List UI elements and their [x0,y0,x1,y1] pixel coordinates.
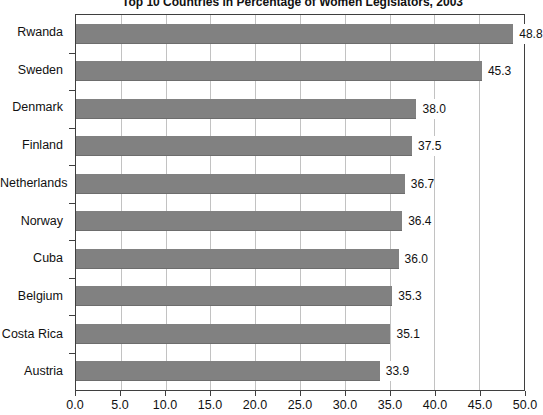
x-axis-label-20: 20.0 [243,398,267,412]
bar-netherlands [76,174,405,194]
category-label-norway: Norway [0,203,69,241]
x-axis-tick-20 [255,391,256,396]
plot-area: 48.845.338.037.536.736.436.035.335.133.9 [75,14,525,391]
chart-title-area: Top 10 Countries in Percentage of Women … [60,0,525,10]
category-label-belgium: Belgium [0,278,69,316]
value-label-belgium: 35.3 [397,286,421,306]
y-axis-tick [69,53,75,54]
category-label-finland: Finland [0,127,69,165]
bar-costa-rica [76,324,390,344]
x-axis-label-0: 0.0 [66,398,83,412]
bar-sweden [76,61,482,81]
x-axis-tick-0 [75,391,76,396]
x-axis-tick-10 [165,391,166,396]
x-axis-label-15: 15.0 [198,398,222,412]
x-axis-tick-50 [525,391,526,396]
x-axis-tick-30 [345,391,346,396]
x-axis-label-10: 10.0 [153,398,177,412]
value-label-sweden: 45.3 [487,61,511,81]
x-axis-tick-15 [210,391,211,396]
x-axis-label-40: 40.0 [423,398,447,412]
bar-denmark [76,99,416,119]
bar-norway [76,211,402,231]
y-axis-tick [69,315,75,316]
bar-belgium [76,286,392,306]
category-label-netherlands: Netherlands [0,165,69,203]
value-label-rwanda: 48.8 [518,24,542,44]
y-axis-tick [69,278,75,279]
x-axis: 0.05.010.015.020.025.030.035.040.045.050… [75,391,525,415]
x-axis-tick-40 [435,391,436,396]
x-axis-label-5: 5.0 [111,398,128,412]
x-axis-label-45: 45.0 [468,398,492,412]
x-axis-label-35: 35.0 [378,398,402,412]
x-axis-tick-45 [480,391,481,396]
bar-cuba [76,249,399,269]
category-axis: RwandaSwedenDenmarkFinlandNetherlandsNor… [0,14,69,391]
x-axis-tick-35 [390,391,391,396]
y-axis-tick [69,353,75,354]
value-label-finland: 37.5 [417,136,441,156]
value-label-austria: 33.9 [385,361,409,381]
chart-title: Top 10 Countries in Percentage of Women … [60,0,525,9]
y-axis-tick [69,203,75,204]
bar-austria [76,361,380,381]
x-axis-tick-5 [120,391,121,396]
y-axis-tick [69,165,75,166]
category-label-denmark: Denmark [0,89,69,127]
bar-finland [76,136,412,156]
value-label-norway: 36.4 [407,211,431,231]
value-label-costa-rica: 35.1 [395,324,419,344]
value-label-denmark: 38.0 [421,99,445,119]
x-axis-label-25: 25.0 [288,398,312,412]
category-label-costa-rica: Costa Rica [0,316,69,354]
value-label-netherlands: 36.7 [410,174,434,194]
y-axis-tick [69,90,75,91]
value-label-cuba: 36.0 [404,249,428,269]
category-label-rwanda: Rwanda [0,14,69,52]
x-axis-label-30: 30.0 [333,398,357,412]
category-label-austria: Austria [0,353,69,391]
y-axis-tick [69,240,75,241]
y-axis-tick [69,128,75,129]
category-label-cuba: Cuba [0,240,69,278]
category-label-sweden: Sweden [0,52,69,90]
x-axis-label-50: 50.0 [513,398,537,412]
x-axis-tick-25 [300,391,301,396]
bar-rwanda [76,24,513,44]
